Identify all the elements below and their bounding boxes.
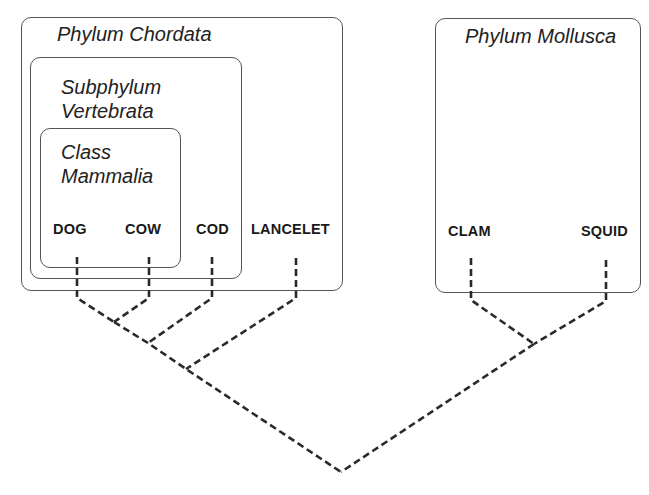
branch-cod (148, 257, 212, 343)
branch-cow (114, 257, 149, 322)
branch-squid (534, 260, 606, 344)
branch-clam (471, 258, 534, 344)
branch-chordata-trunk (114, 322, 341, 472)
phylogenetic-tree (0, 0, 649, 495)
branch-lancelet (186, 258, 296, 369)
branch-dog (77, 257, 114, 322)
branch-mollusca-trunk (341, 344, 534, 472)
